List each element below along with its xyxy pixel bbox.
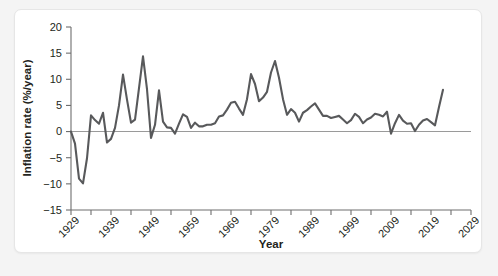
x-axis-tick-marks — [71, 210, 471, 215]
inflation-line-chart: 20151050−5−10−15 19291939194919591969197… — [15, 10, 483, 254]
y-axis-tick-labels: 20151050−5−10−15 — [43, 21, 62, 216]
x-tick-label: 1979 — [256, 214, 282, 240]
chart-card: 20151050−5−10−15 19291939194919591969197… — [14, 9, 482, 253]
x-tick-label: 2009 — [376, 214, 402, 240]
y-tick-label: 5 — [56, 99, 62, 111]
x-tick-label: 1949 — [136, 214, 162, 240]
y-tick-label: −5 — [49, 152, 62, 164]
x-axis-tick-labels: 1929193919491959196919791989199920092019… — [56, 214, 482, 240]
x-tick-label: 1989 — [296, 214, 322, 240]
y-tick-label: 10 — [50, 73, 62, 85]
y-tick-label: −15 — [43, 204, 62, 216]
y-tick-label: 0 — [56, 125, 62, 137]
x-tick-label: 2029 — [456, 214, 482, 240]
x-tick-label: 1929 — [56, 214, 82, 240]
y-tick-label: 15 — [50, 47, 62, 59]
x-tick-label: 1959 — [176, 214, 202, 240]
y-axis-title: Inflation rate (%/year) — [21, 59, 33, 176]
y-tick-label: −10 — [43, 178, 62, 190]
x-tick-label: 1969 — [216, 214, 242, 240]
y-axis-tick-marks — [66, 27, 71, 210]
y-tick-label: 20 — [50, 21, 62, 33]
x-tick-label: 2019 — [416, 214, 442, 240]
x-tick-label: 1999 — [336, 214, 362, 240]
x-axis-title: Year — [259, 238, 284, 250]
x-tick-label: 1939 — [96, 214, 122, 240]
inflation-rate-series — [71, 56, 443, 183]
chart-page: 20151050−5−10−15 19291939194919591969197… — [0, 0, 498, 276]
